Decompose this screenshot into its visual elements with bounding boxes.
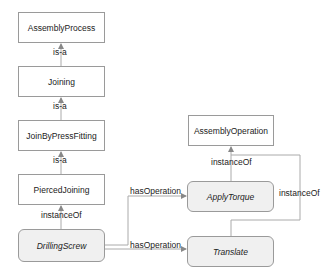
node-join-by-press-fitting[interactable]: JoinByPressFitting [18,120,105,151]
node-assembly-operation[interactable]: AssemblyOperation [188,115,274,146]
edge-label-isa-1: is-a [53,47,67,57]
node-translate[interactable]: Translate [187,236,274,267]
node-assembly-process[interactable]: AssemblyProcess [18,12,105,43]
edge-label-instance-of: instanceOf [41,210,82,220]
edge-label-instance-of-apply: instanceOf [211,157,252,167]
node-pierced-joining[interactable]: PiercedJoining [18,174,105,205]
node-apply-torque[interactable]: ApplyTorque [187,181,274,212]
edge-label-instance-of-translate: instanceOf [279,188,320,198]
edge-has-operation-1 [105,196,186,245]
node-joining[interactable]: Joining [18,66,105,97]
edge-label-has-operation-2: hasOperation [130,240,181,250]
node-drilling-screw[interactable]: DrillingScrew [18,229,105,262]
edge-label-isa-3: is-a [53,155,67,165]
edge-label-has-operation-1: hasOperation [130,186,181,196]
edge-label-isa-2: is-a [53,101,67,111]
